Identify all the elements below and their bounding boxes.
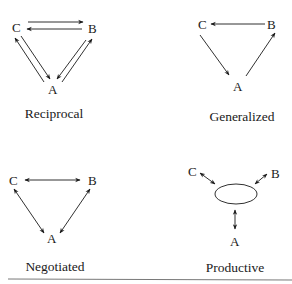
arrow-c-a <box>14 189 44 233</box>
arrow-a-to-b <box>246 33 275 76</box>
arrow-a-to-c <box>15 38 44 82</box>
hub-ellipse <box>215 184 257 204</box>
node-a: A <box>47 231 57 246</box>
exchange-forms-diagram: C B A Reciprocal C B A Generalized C B A… <box>0 0 292 284</box>
arrow-c-to-a <box>21 36 50 79</box>
caption-negotiated: Negotiated <box>25 259 84 274</box>
node-b: B <box>88 21 97 36</box>
node-b: B <box>267 17 276 32</box>
panel-reciprocal: C B A Reciprocal <box>12 20 97 121</box>
node-c: C <box>198 17 207 32</box>
node-c: C <box>9 173 18 188</box>
node-b: B <box>271 166 280 181</box>
node-c: C <box>12 20 21 35</box>
node-a: A <box>48 82 58 97</box>
panel-generalized: C B A Generalized <box>198 17 276 124</box>
arrow-b-a <box>60 189 90 233</box>
arrow-b-to-a <box>57 40 86 79</box>
node-b: B <box>88 173 97 188</box>
arrow-c-to-a <box>200 35 229 75</box>
arrow-b-hub <box>255 174 267 184</box>
caption-reciprocal: Reciprocal <box>25 106 84 121</box>
arrow-a-to-b <box>62 39 92 82</box>
caption-productive: Productive <box>206 260 265 275</box>
panel-productive: C B A Productive <box>188 164 280 275</box>
caption-generalized: Generalized <box>209 109 274 124</box>
arrow-c-hub <box>200 173 215 184</box>
node-a: A <box>230 234 240 249</box>
node-c: C <box>188 164 197 179</box>
panel-negotiated: C B A Negotiated <box>9 173 97 274</box>
node-a: A <box>233 79 243 94</box>
bottom-rule <box>8 279 292 280</box>
